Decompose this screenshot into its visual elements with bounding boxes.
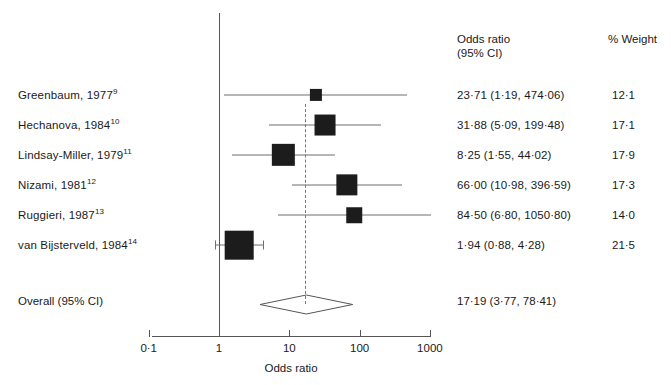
study-label: Ruggieri, 198713 — [18, 209, 104, 221]
study-effect-box — [225, 231, 254, 260]
study-odds-ratio-value: 66·00 (10·98, 396·59) — [457, 179, 571, 191]
odds-ratio-column-header: Odds ratio — [457, 33, 510, 45]
study-weight-value: 21·5 — [612, 239, 635, 251]
x-axis-line — [152, 336, 430, 337]
study-weight-value: 12·1 — [612, 89, 635, 101]
study-weight-value: 14·0 — [612, 209, 635, 221]
study-odds-ratio-value: 1·94 (0·88, 4·28) — [457, 239, 545, 251]
confidence-interval-cap — [215, 241, 216, 250]
study-label: Greenbaum, 19779 — [18, 89, 118, 101]
odds-ratio-ci-column-subheader: (95% CI) — [457, 47, 502, 59]
x-axis-tick — [289, 330, 290, 337]
x-axis-tick-label: 1 — [216, 342, 222, 354]
study-odds-ratio-value: 23·71 (1·19, 474·06) — [457, 89, 564, 101]
x-axis-tick — [149, 330, 150, 337]
x-axis-title: Odds ratio — [264, 362, 317, 374]
study-effect-box — [347, 207, 363, 223]
forest-plot: Odds ratio (95% CI) % Weight Greenbaum, … — [0, 0, 671, 385]
study-weight-value: 17·1 — [612, 119, 635, 131]
study-effect-box — [310, 89, 322, 101]
study-label: Hechanova, 198410 — [18, 119, 120, 131]
study-odds-ratio-value: 31·88 (5·09, 199·48) — [457, 119, 564, 131]
x-axis-tick — [430, 330, 431, 337]
confidence-interval-cap — [263, 241, 264, 250]
x-axis-tick-label: 100 — [350, 342, 369, 354]
x-axis-tick — [360, 330, 361, 337]
pooled-estimate-dashed-line — [305, 104, 306, 304]
study-label: Nizami, 198112 — [18, 179, 96, 191]
study-label: van Bijsterveld, 198414 — [18, 239, 137, 251]
x-axis-tick-label: 10 — [283, 342, 296, 354]
overall-odds-ratio-value: 17·19 (3·77, 78·41) — [457, 295, 556, 307]
study-weight-value: 17·9 — [612, 149, 635, 161]
x-axis-tick — [219, 330, 220, 337]
overall-label: Overall (95% CI) — [18, 295, 103, 307]
null-effect-line — [219, 13, 220, 336]
weight-column-header: % Weight — [608, 33, 657, 45]
study-label: Lindsay-Miller, 197911 — [18, 149, 132, 161]
x-axis-tick-label: 1000 — [417, 342, 443, 354]
x-axis-tick-label: 0·1 — [140, 342, 157, 354]
study-effect-box — [272, 144, 294, 166]
study-odds-ratio-value: 8·25 (1·55, 44·02) — [457, 149, 552, 161]
study-effect-box — [314, 115, 335, 136]
study-effect-box — [336, 174, 357, 195]
study-odds-ratio-value: 84·50 (6·80, 1050·80) — [457, 209, 571, 221]
study-weight-value: 17·3 — [612, 179, 635, 191]
